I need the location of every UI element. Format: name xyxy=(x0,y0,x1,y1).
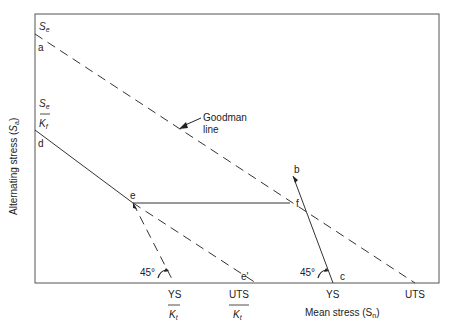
x-label-uts-kt-num: UTS xyxy=(229,289,249,300)
se-kf-numerator: Se xyxy=(39,98,50,110)
point-e-label: e xyxy=(130,190,136,201)
point-eprime-label: e' xyxy=(241,271,249,282)
goodman-diagram: Alternating stress (Sa) Se a Se Kf d e f… xyxy=(0,0,451,330)
x-label-ys-kt-den: Kt xyxy=(169,309,179,321)
y-axis-label: Alternating stress (Sa) xyxy=(8,118,20,215)
point-a-label: a xyxy=(38,42,44,53)
x-label-uts-kt-den: Kt xyxy=(233,309,243,321)
goodman-label-line1: Goodman xyxy=(203,112,247,123)
x-label-ys: YS xyxy=(326,289,340,300)
x-label-uts: UTS xyxy=(405,289,425,300)
plot-frame xyxy=(35,14,439,283)
angle-label-2: 45° xyxy=(300,267,315,278)
point-d-label: d xyxy=(38,138,44,149)
goodman-label-line2: line xyxy=(203,124,219,135)
goodman-arrow-icon xyxy=(179,122,188,129)
x-axis-label: Mean stress (Sn) xyxy=(305,307,380,319)
point-c-label: c xyxy=(340,271,345,282)
x-label-ys-kt-num: YS xyxy=(168,289,182,300)
angle-label-1: 45° xyxy=(140,267,155,278)
point-b-label: b xyxy=(294,164,300,175)
goodman-line xyxy=(35,34,415,283)
line-d-e xyxy=(35,130,133,203)
point-f-label: f xyxy=(296,198,299,209)
se-label: Se xyxy=(39,21,50,33)
arrowhead-b xyxy=(293,176,298,183)
se-kf-denominator: Kf xyxy=(39,118,49,130)
